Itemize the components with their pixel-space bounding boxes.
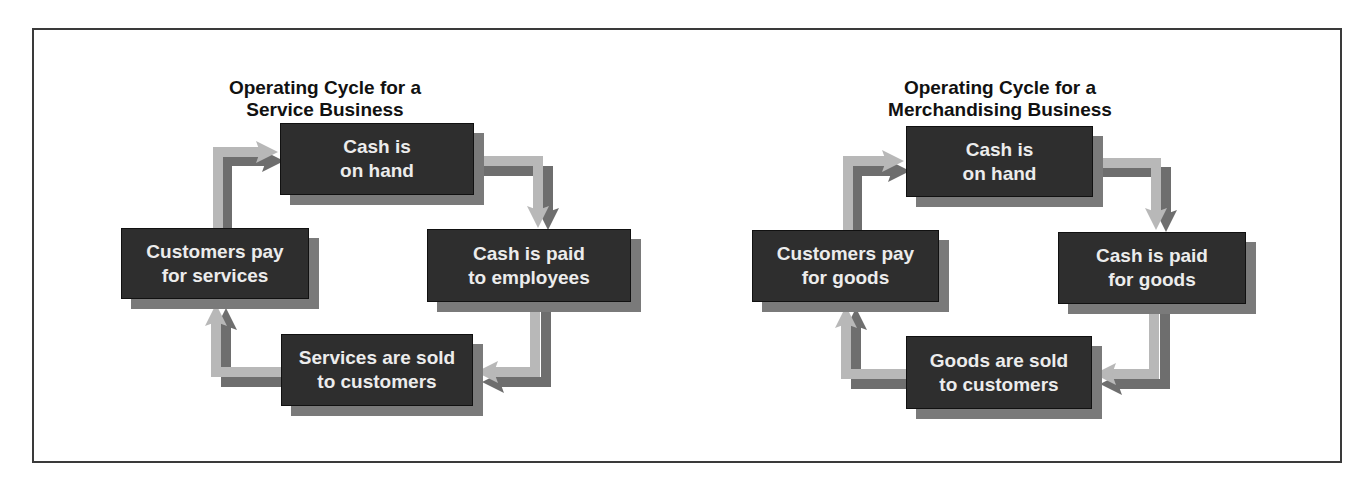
arrow-bottom-to-left-2 bbox=[835, 306, 906, 384]
node-label: Customers pay for goods bbox=[752, 230, 939, 302]
node-label: Customers pay for services bbox=[121, 228, 309, 299]
node-customers-pay-goods: Customers pay for goods bbox=[752, 230, 939, 302]
node-services-sold: Services are sold to customers bbox=[281, 334, 473, 406]
arrow-left-to-top-2 bbox=[848, 150, 910, 230]
node-label: Cash is on hand bbox=[906, 126, 1093, 197]
node-label: Cash is paid for goods bbox=[1058, 232, 1246, 304]
arrow-left-to-top bbox=[218, 141, 284, 228]
arrow-top-to-right bbox=[474, 161, 559, 230]
diagram-title-merchandising: Operating Cycle for a Merchandising Busi… bbox=[860, 77, 1140, 121]
node-cash-on-hand-2: Cash is on hand bbox=[906, 126, 1093, 197]
node-goods-sold: Goods are sold to customers bbox=[906, 336, 1092, 409]
node-customers-pay-services: Customers pay for services bbox=[121, 228, 309, 299]
node-label: Goods are sold to customers bbox=[906, 336, 1092, 409]
arrow-bottom-to-left bbox=[205, 304, 281, 382]
node-cash-paid-for-goods: Cash is paid for goods bbox=[1058, 232, 1246, 304]
arrow-right-to-bottom-2 bbox=[1094, 304, 1165, 395]
arrow-top-to-right-2 bbox=[1093, 163, 1177, 232]
node-label: Cash is on hand bbox=[280, 123, 474, 195]
node-cash-on-hand: Cash is on hand bbox=[280, 123, 474, 195]
arrow-right-to-bottom bbox=[476, 302, 546, 393]
node-label: Services are sold to customers bbox=[281, 334, 473, 406]
node-label: Cash is paid to employees bbox=[427, 229, 631, 302]
diagram-title-service: Operating Cycle for a Service Business bbox=[220, 77, 430, 121]
node-cash-paid-to-employees: Cash is paid to employees bbox=[427, 229, 631, 302]
